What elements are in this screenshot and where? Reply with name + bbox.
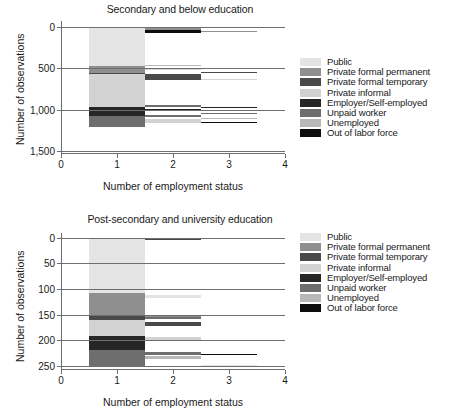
legend-swatch xyxy=(300,119,321,127)
y-axis-line-top xyxy=(61,21,62,154)
y-tick xyxy=(57,238,61,239)
legend-swatch xyxy=(300,233,321,241)
gridline xyxy=(61,238,285,239)
y-tick xyxy=(57,366,61,367)
x-tick xyxy=(285,370,286,374)
x-tick-label: 0 xyxy=(58,159,64,170)
y-tick-label: 150 xyxy=(38,309,55,320)
y-tick-label: 0 xyxy=(49,232,55,243)
y-tick-label: 500 xyxy=(38,63,55,74)
gridline xyxy=(61,110,285,111)
legend-bottom: PublicPrivate formal permanentPrivate fo… xyxy=(300,232,430,314)
bar-segment xyxy=(201,354,257,355)
legend-swatch xyxy=(300,264,321,272)
gridline xyxy=(61,315,285,316)
bar-segment xyxy=(89,27,145,66)
bar-segment xyxy=(89,107,145,116)
bar-segment xyxy=(145,352,201,355)
bar-segment xyxy=(89,320,145,336)
x-tick xyxy=(117,154,118,158)
bar-segment xyxy=(145,295,201,298)
legend-swatch xyxy=(300,99,321,107)
bar-segment xyxy=(201,72,257,73)
y-tick-label: 0 xyxy=(49,21,55,32)
y-tick xyxy=(57,151,61,152)
gridline xyxy=(61,289,285,290)
bar-segment xyxy=(145,65,201,66)
bar-segment xyxy=(89,74,145,106)
legend-label: Private formal temporary xyxy=(327,77,427,87)
bar-segment xyxy=(145,317,201,318)
y-tick-label: 250 xyxy=(38,360,55,371)
gridline xyxy=(61,366,285,367)
legend-item: Out of labor force xyxy=(300,128,430,138)
legend-swatch xyxy=(300,304,321,312)
x-tick-label: 3 xyxy=(226,159,232,170)
bar-segment xyxy=(145,119,201,123)
y-tick-label: 50 xyxy=(44,258,55,269)
y-tick-label: 200 xyxy=(38,335,55,346)
x-tick-label: 3 xyxy=(226,375,232,386)
x-tick xyxy=(61,370,62,374)
x-tick xyxy=(229,154,230,158)
legend-swatch xyxy=(300,274,321,282)
legend-label: Out of labor force xyxy=(327,303,398,313)
x-axis-caption-top: Number of employment status xyxy=(61,180,285,192)
plot-area-top: 05001,0001,500 01234 xyxy=(61,21,285,154)
bar-segment xyxy=(89,293,145,315)
x-tick xyxy=(173,370,174,374)
bar-segment xyxy=(89,336,145,350)
legend-swatch xyxy=(300,58,321,66)
bar-segment xyxy=(145,115,201,118)
x-tick xyxy=(173,154,174,158)
figure-post-secondary-university: Post-secondary and university education … xyxy=(0,210,450,420)
y-tick xyxy=(57,289,61,290)
x-tick xyxy=(285,154,286,158)
y-tick xyxy=(57,315,61,316)
gridline xyxy=(61,68,285,69)
x-tick xyxy=(61,154,62,158)
legend-label: Out of labor force xyxy=(327,128,398,138)
legend-label: Private formal temporary xyxy=(327,252,427,262)
plot-canvas-bottom xyxy=(61,233,285,370)
panel-title-bottom: Post-secondary and university education xyxy=(60,213,300,225)
bar-segment xyxy=(145,30,201,33)
bar-segment xyxy=(145,105,201,106)
bar-segment xyxy=(201,79,257,80)
y-tick-label: 100 xyxy=(38,284,55,295)
legend-top: PublicPrivate formal permanentPrivate fo… xyxy=(300,57,430,139)
bar-segment xyxy=(201,122,257,123)
bar-segment xyxy=(145,356,201,359)
legend-swatch xyxy=(300,284,321,292)
y-tick-label: 1,500 xyxy=(30,146,55,157)
y-tick xyxy=(57,27,61,28)
gridline xyxy=(61,340,285,341)
y-axis-caption-bottom: Number of observations xyxy=(14,251,26,362)
legend-swatch xyxy=(300,89,321,97)
gridline xyxy=(61,27,285,28)
plot-area-bottom: 050100150200250 01234 xyxy=(61,233,285,370)
x-tick-label: 1 xyxy=(114,159,120,170)
x-tick xyxy=(229,370,230,374)
y-tick xyxy=(57,263,61,264)
bar-segment xyxy=(201,31,257,32)
bar-segment xyxy=(89,350,145,366)
panel-title-top: Secondary and below education xyxy=(60,3,300,15)
y-axis-line-bottom xyxy=(61,233,62,370)
x-tick xyxy=(117,370,118,374)
bar-segment xyxy=(201,107,257,108)
bar-segment xyxy=(89,66,145,73)
bar-segment xyxy=(201,118,257,119)
bar-segment xyxy=(89,238,145,293)
x-tick-label: 0 xyxy=(58,375,64,386)
y-tick xyxy=(57,68,61,69)
gridline xyxy=(61,263,285,264)
x-axis-caption-bottom: Number of employment status xyxy=(61,396,285,408)
bar-segment xyxy=(89,116,145,127)
legend-item: Out of labor force xyxy=(300,303,430,313)
x-tick-label: 4 xyxy=(282,375,288,386)
x-tick-label: 2 xyxy=(170,375,176,386)
legend-swatch xyxy=(300,294,321,302)
legend-swatch xyxy=(300,253,321,261)
y-tick-label: 1,000 xyxy=(30,104,55,115)
